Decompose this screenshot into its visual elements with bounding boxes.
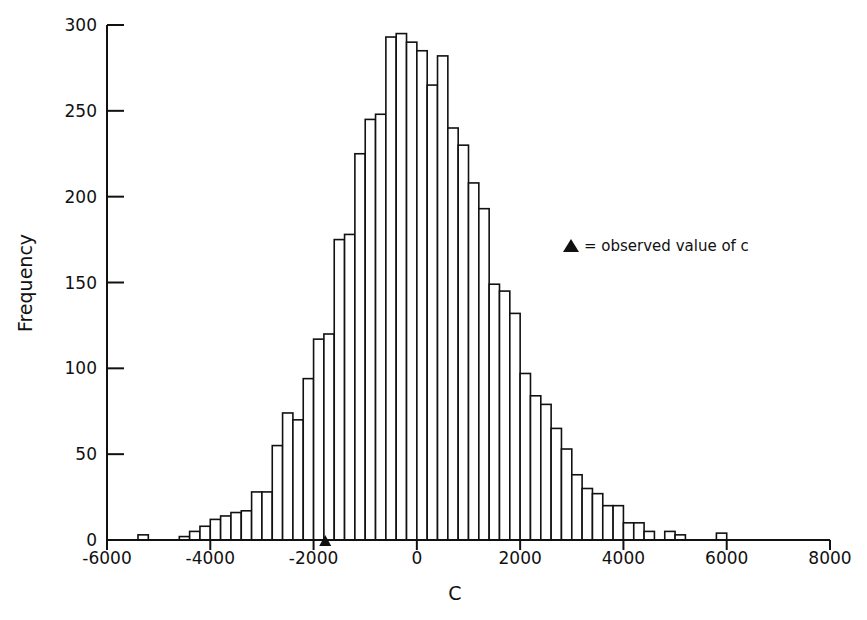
x-tick-label: 0 [411, 548, 422, 568]
histogram-bar [469, 183, 479, 540]
histogram-bar [551, 428, 561, 540]
histogram-bar [200, 526, 210, 540]
histogram-bar [582, 489, 592, 541]
x-tick-label: -4000 [186, 548, 235, 568]
legend-triangle-icon [563, 239, 579, 252]
histogram-bar [252, 492, 262, 540]
histogram-bar [427, 85, 437, 540]
y-tick-label: 150 [65, 273, 97, 293]
histogram-bar [510, 313, 520, 540]
y-tick-label: 100 [65, 358, 97, 378]
y-tick-label: 250 [65, 101, 97, 121]
histogram-bar [479, 209, 489, 540]
histogram-bar [634, 523, 644, 540]
x-tick-label: 6000 [705, 548, 748, 568]
histogram-bar [530, 396, 540, 540]
histogram-bar [572, 475, 582, 540]
histogram-bar [272, 446, 282, 540]
histogram-bar [376, 114, 386, 540]
histogram-bar [231, 513, 241, 540]
histogram-bar [355, 154, 365, 540]
histogram-bar [716, 533, 726, 540]
histogram-bar [396, 34, 406, 540]
histogram-bar [438, 56, 448, 540]
histogram-bar [303, 379, 313, 540]
y-tick-label: 200 [65, 187, 97, 207]
x-tick-label: -2000 [289, 548, 338, 568]
histogram-bar [458, 145, 468, 540]
histogram-bars [138, 34, 727, 540]
histogram-bar [345, 234, 355, 540]
legend-text: = observed value of c [584, 237, 749, 255]
x-tick-label: 8000 [808, 548, 851, 568]
y-tick-label: 300 [65, 15, 97, 35]
histogram-bar [417, 51, 427, 540]
histogram-bar [520, 373, 530, 540]
y-axis-ticks: 050100150200250300 [65, 15, 124, 550]
histogram-chart: 050100150200250300 -6000-4000-2000020004… [0, 0, 867, 620]
histogram-bar [499, 291, 509, 540]
x-tick-label: 4000 [602, 548, 645, 568]
histogram-bar [365, 119, 375, 540]
histogram-bar [603, 506, 613, 540]
histogram-bar [541, 404, 551, 540]
histogram-bar [334, 240, 344, 540]
x-tick-label: -6000 [82, 548, 131, 568]
histogram-bar [324, 334, 334, 540]
histogram-bar [283, 413, 293, 540]
histogram-bar [386, 37, 396, 540]
histogram-bar [314, 339, 324, 540]
histogram-bar [592, 494, 602, 540]
histogram-bar [293, 420, 303, 540]
histogram-bar [623, 523, 633, 540]
y-tick-label: 0 [86, 530, 97, 550]
histogram-bar [489, 284, 499, 540]
y-tick-label: 50 [75, 444, 97, 464]
legend: = observed value of c [563, 237, 749, 255]
histogram-bar [448, 128, 458, 540]
histogram-bar [561, 449, 571, 540]
histogram-bar [210, 519, 220, 540]
x-tick-label: 2000 [499, 548, 542, 568]
x-axis-ticks: -6000-4000-200002000400060008000 [82, 540, 851, 568]
histogram-bar [221, 516, 231, 540]
histogram-bar [644, 531, 654, 540]
histogram-bar [241, 511, 251, 540]
histogram-bar [262, 492, 272, 540]
x-axis-title: C [448, 582, 461, 604]
y-axis-title: Frequency [14, 234, 36, 332]
histogram-bar [613, 506, 623, 540]
histogram-bar [190, 531, 200, 540]
histogram-bar [665, 531, 675, 540]
histogram-bar [407, 42, 417, 540]
